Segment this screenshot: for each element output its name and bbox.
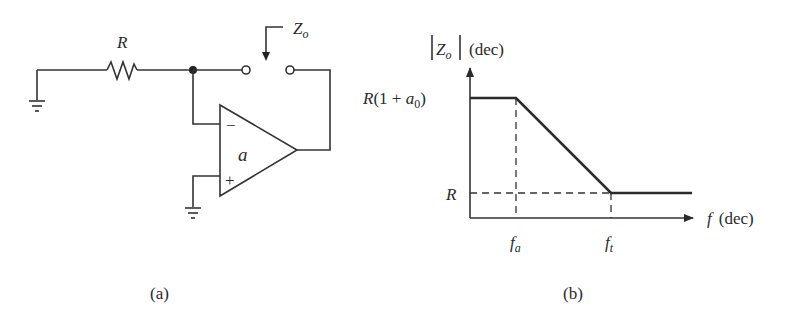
opamp-gain-label: a [238,144,248,165]
wire-noninverting-to-ground [193,176,220,207]
x-tick-ft: ft [605,233,614,255]
y-axis-label: Zo (dec) [432,35,504,62]
svg-text:(dec): (dec) [469,40,504,59]
ground-icon-opamp [185,208,201,218]
impedance-plot: Zo (dec) R(1 + a0) R fa ft f(dec) (b) [362,35,754,303]
impedance-probe-arrow-icon [262,27,283,61]
opamp-noninverting-sign: + [225,171,235,190]
x-tick-fa: fa [510,233,521,255]
circuit-diagram: R Zo − + a (a) [29,19,330,303]
resistor-icon [107,62,137,79]
switch-terminal-left-icon [242,66,250,74]
ground-icon-left [29,70,45,111]
y-tick-high: R(1 + a0) [362,89,426,111]
wire-feedback [294,70,330,150]
opamp-inverting-sign: − [226,116,236,135]
switch-terminal-right-icon [286,66,294,74]
figure-canvas: R Zo − + a (a) [0,0,789,320]
resistor-label: R [116,33,128,52]
caption-b: (b) [563,284,583,303]
x-axis-label: f(dec) [707,209,754,228]
svg-text:Zo: Zo [436,40,451,62]
impedance-curve [470,98,692,193]
wire-node-to-inverting-input [193,70,220,124]
impedance-label: Zo [293,19,308,41]
y-tick-low: R [445,185,457,204]
caption-a: (a) [150,284,169,303]
